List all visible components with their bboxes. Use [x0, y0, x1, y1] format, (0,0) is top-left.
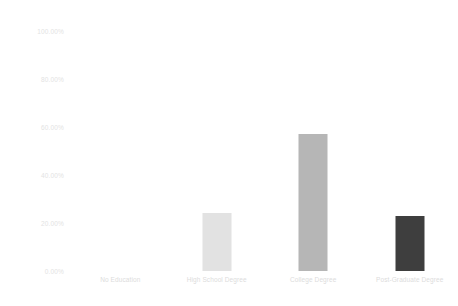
bar-college-degree[interactable] — [299, 134, 328, 271]
bar-high-school-degree[interactable] — [202, 213, 231, 271]
y-axis-tick-label: 0.00% — [45, 268, 64, 275]
y-axis: 100.00% 80.00% 60.00% 40.00% 20.00% 0.00… — [0, 0, 72, 306]
x-axis-tick-label: College Degree — [290, 276, 337, 283]
x-axis-tick-label: High School Degree — [187, 276, 247, 283]
y-axis-tick-label: 100.00% — [37, 28, 64, 35]
bar-slot-high-school-degree — [169, 31, 266, 271]
bar-chart: 100.00% 80.00% 60.00% 40.00% 20.00% 0.00… — [0, 0, 458, 306]
x-axis: No Education High School Degree College … — [72, 276, 458, 298]
y-axis-tick-label: 20.00% — [41, 220, 64, 227]
bar-slot-college-degree — [265, 31, 362, 271]
bar-slot-post-graduate-degree — [362, 31, 458, 271]
y-axis-tick-label: 60.00% — [41, 124, 64, 131]
plot-area — [72, 31, 458, 271]
y-axis-tick-label: 80.00% — [41, 76, 64, 83]
y-axis-tick-label: 40.00% — [41, 172, 64, 179]
x-axis-tick-label: No Education — [100, 276, 140, 283]
bar-slot-no-education — [72, 31, 169, 271]
bar-post-graduate-degree[interactable] — [395, 216, 424, 271]
x-axis-tick-label: Post-Graduate Degree — [376, 276, 443, 283]
